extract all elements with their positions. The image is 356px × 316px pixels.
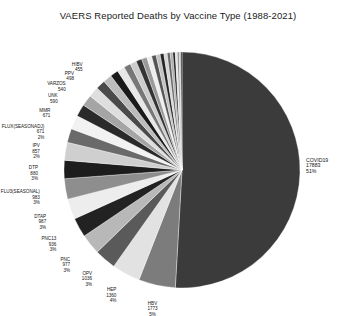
pie-label-line: PNC13 xyxy=(41,236,56,241)
pie-label-line: 498 xyxy=(66,76,74,81)
pie-label-line: 671 xyxy=(43,113,51,118)
pie-label-line: FLU3(SEASONAL) xyxy=(1,189,41,194)
pie-label-line: 1036 xyxy=(82,276,93,281)
pie-slice-group xyxy=(64,52,300,288)
pie-label-line: UNK xyxy=(48,93,59,98)
pie-chart-figure: VAERS Reported Deaths by Vaccine Type (1… xyxy=(0,0,356,316)
pie-label-line: MMR xyxy=(39,108,51,113)
pie-label-line: HIBV xyxy=(72,62,84,67)
pie-slice-label: FLUX(SEASONADJ)6712% xyxy=(2,124,45,140)
pie-label-line: 2% xyxy=(38,135,45,140)
pie-label-line: HEP xyxy=(107,287,116,292)
pie-label-line: OPV xyxy=(82,271,93,276)
pie-label-line: 880 xyxy=(30,171,38,176)
pie-slice-label: PNC139363% xyxy=(41,236,56,252)
pie-label-line: PNC xyxy=(60,257,70,262)
pie-label-line: DTP xyxy=(29,165,38,170)
pie-slice-label: UNK590 xyxy=(48,93,59,103)
pie-label-line: 987 xyxy=(39,219,47,224)
pie-label-line: 977 xyxy=(62,262,70,267)
pie-slice-label: HEP13604% xyxy=(106,287,117,303)
pie-label-line: 455 xyxy=(75,67,83,72)
pie-label-line: 1773 xyxy=(147,306,158,311)
pie-slice-label: COVID191788351% xyxy=(306,157,328,174)
pie-label-line: 3% xyxy=(40,225,47,230)
pie-slice-label: IPV8572% xyxy=(32,143,41,159)
pie-label-line: 857 xyxy=(32,149,40,154)
pie-label-line: DTAP xyxy=(34,214,46,219)
pie-label-line: 3% xyxy=(50,247,57,252)
pie-label-line: VARZOS xyxy=(47,81,66,86)
pie-label-line: 540 xyxy=(58,87,66,92)
pie-chart-canvas: COVID191788351%HBV17735%HEP13604%OPV1036… xyxy=(0,0,356,316)
pie-slice-label: MMR671 xyxy=(39,108,51,118)
pie-label-line: PPV xyxy=(65,71,75,76)
pie-label-line: 4% xyxy=(110,298,117,303)
pie-label-line: 3% xyxy=(63,268,70,273)
pie-slice-label: PNC9773% xyxy=(60,257,70,273)
pie-slice-label: VARZOS540 xyxy=(47,81,66,91)
pie-label-line: IPV xyxy=(32,143,40,148)
pie-label-line: 983 xyxy=(32,195,40,200)
pie-label-line: 51% xyxy=(306,168,317,174)
pie-label-line: 3% xyxy=(31,176,38,181)
pie-slice-label: FLU3(SEASONAL)9833% xyxy=(1,189,41,205)
pie-slice-label: DTAP9873% xyxy=(34,214,46,230)
pie-label-line: 1360 xyxy=(106,293,117,298)
pie-slice-label: DTP8803% xyxy=(29,165,39,181)
pie-slice-label: OPV10363% xyxy=(82,271,93,287)
pie-label-line: 3% xyxy=(85,282,92,287)
pie-slice-label: PPV498 xyxy=(65,71,75,81)
pie-label-line: HBV xyxy=(148,301,158,306)
pie-label-line: 671 xyxy=(37,129,45,134)
pie-label-line: 2% xyxy=(33,154,40,159)
pie-label-line: 3% xyxy=(33,200,40,205)
pie-label-line: 590 xyxy=(50,99,58,104)
pie-label-line: 5% xyxy=(149,312,156,316)
pie-label-line: 936 xyxy=(49,242,57,247)
pie-slice[interactable] xyxy=(175,52,300,288)
pie-slice-label: HBV17735% xyxy=(147,301,158,316)
pie-label-line: FLUX(SEASONADJ) xyxy=(2,124,45,129)
